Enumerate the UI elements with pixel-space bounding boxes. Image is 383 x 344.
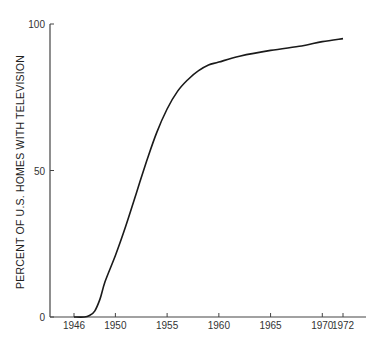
x-tick-label: 1972 bbox=[332, 320, 355, 331]
x-tick-label: 1970 bbox=[311, 320, 334, 331]
axes bbox=[50, 24, 366, 317]
x-tick-label: 1960 bbox=[208, 320, 231, 331]
x-tick-label: 1965 bbox=[259, 320, 282, 331]
x-tick-label: 1950 bbox=[104, 320, 127, 331]
x-tick-label: 1955 bbox=[156, 320, 179, 331]
y-axis-label: PERCENT OF U.S. HOMES WITH TELEVISION bbox=[14, 55, 26, 289]
x-axis-ticks: 1946195019551960196519701972 bbox=[63, 313, 355, 331]
data-line bbox=[74, 39, 343, 317]
y-tick-label: 100 bbox=[28, 19, 45, 30]
y-tick-label: 0 bbox=[39, 312, 45, 323]
line-chart: 050100 1946195019551960196519701972 PERC… bbox=[0, 0, 383, 344]
x-tick-label: 1946 bbox=[63, 320, 86, 331]
y-tick-label: 50 bbox=[34, 166, 46, 177]
